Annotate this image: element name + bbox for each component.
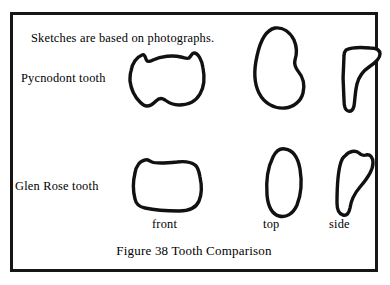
view-label-top: top bbox=[263, 217, 279, 232]
row-label-pycnodont: Pycnodont tooth bbox=[21, 71, 106, 86]
tooth-sketch-glen-rose-front bbox=[121, 153, 213, 217]
tooth-sketch-glen-rose-top bbox=[261, 145, 307, 221]
row-label-glen-rose: Glen Rose tooth bbox=[15, 179, 99, 194]
tooth-sketch-pycnodont-top bbox=[251, 23, 311, 113]
view-label-side: side bbox=[329, 217, 350, 232]
tooth-sketch-glen-rose-side bbox=[329, 147, 379, 221]
figure-caption: Figure 38 Tooth Comparison bbox=[13, 243, 375, 259]
tooth-sketch-pycnodont-side bbox=[336, 43, 384, 115]
figure-frame: Sketches are based on photographs. Pycno… bbox=[10, 12, 378, 272]
sketch-note: Sketches are based on photographs. bbox=[31, 31, 214, 46]
tooth-sketch-pycnodont-front bbox=[121, 49, 211, 111]
view-label-front: front bbox=[152, 217, 177, 232]
